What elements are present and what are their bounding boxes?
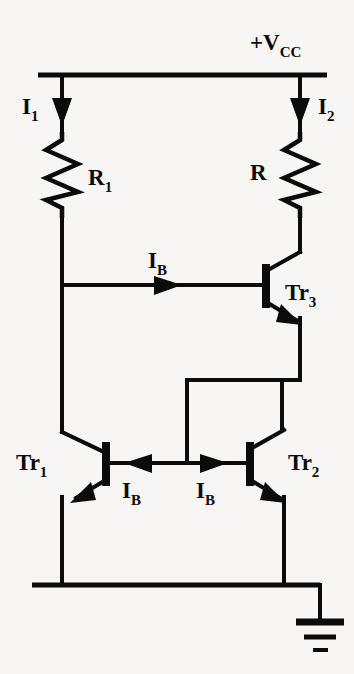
transistor-tr1-label: Tr1 (16, 450, 47, 480)
transistor-tr2-label: Tr2 (288, 450, 319, 480)
current-i2-label: I2 (318, 94, 334, 124)
circuit-diagram-page: +VCC I1 I2 R1 R IB Tr3 Tr1 Tr2 (0, 0, 354, 674)
base-current-tr1-label: IB (122, 478, 141, 508)
current-i1-label: I1 (22, 94, 38, 124)
transistor-tr3-label: Tr3 (285, 280, 316, 310)
resistor-r-symbol (284, 132, 316, 218)
tr1-collector-lead (62, 432, 104, 452)
supply-rail-label: +VCC (250, 30, 301, 60)
base-current-tr3-arrowhead (154, 276, 182, 295)
base-current-tr3-label: IB (148, 248, 167, 278)
current-i2-arrowhead (290, 98, 310, 126)
tr1-emitter-arrowhead (70, 482, 96, 503)
resistor-r1-label: R1 (88, 165, 112, 195)
circuit-schematic-canvas: +VCC I1 I2 R1 R IB Tr3 Tr1 Tr2 (0, 0, 354, 674)
current-i1-arrowhead (52, 98, 72, 126)
tr3-collector-lead (268, 252, 300, 270)
base-current-tr2-arrowhead (200, 454, 228, 473)
base-current-tr1-arrowhead (124, 454, 152, 473)
tr2-collector-lead (252, 430, 284, 448)
base-current-tr2-label: IB (196, 478, 215, 508)
resistor-r-label: R (250, 160, 267, 185)
resistor-r1-symbol (46, 132, 78, 218)
